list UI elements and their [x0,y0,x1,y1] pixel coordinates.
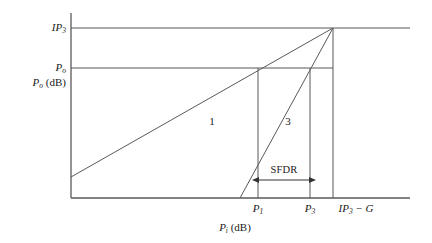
y-axis-title: Po (dB) [6,77,66,89]
y-tick-ip3-sub: 3 [62,27,66,36]
x-tick-label-ip3-minus-g: IP3 − G [338,203,373,215]
x-axis-title: Pi (dB) [219,222,251,234]
x-axis-title-units: (dB) [231,221,251,233]
sfdr-label: SFDR [268,164,299,175]
y-axis-title-sub: o [39,82,43,91]
sfdr-label-text: SFDR [270,164,297,175]
x-tick-ip3g-suffix: − G [353,202,374,214]
x-tick-ip3g-main: IP [338,202,348,214]
x-axis-title-main: P [219,221,226,233]
x-tick-label-p3: P3 [305,203,315,215]
x-tick-ip3g-sub: 3 [349,207,353,216]
x-tick-p3-sub: 3 [311,207,315,216]
ip3-sfdr-figure: IP3 Po Po (dB) P1 P3 IP3 − G Pi (dB) 1 3… [0,0,432,243]
slope-label-3: 3 [285,116,291,128]
y-tick-label-po: Po [18,62,66,74]
y-axis-title-units: (dB) [46,76,66,88]
fundamental-slope1-line [71,28,333,177]
slope-label-1: 1 [209,116,215,128]
x-axis-title-sub: i [226,226,228,235]
y-tick-ip3-main: IP [52,21,62,33]
y-tick-po-sub: o [62,67,66,76]
slope-label-3-text: 3 [285,115,291,127]
x-tick-p1-main: P [253,202,260,214]
x-tick-label-p1: P1 [253,203,263,215]
x-tick-p3-main: P [305,202,312,214]
slope-label-1-text: 1 [209,115,215,127]
x-tick-p1-sub: 1 [259,207,263,216]
y-tick-label-ip3: IP3 [18,22,66,34]
